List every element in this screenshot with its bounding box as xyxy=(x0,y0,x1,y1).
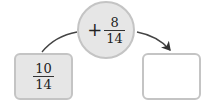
plus-operator: + xyxy=(87,21,102,39)
connector-arc-in xyxy=(42,32,77,52)
start-value-box: 10 14 xyxy=(14,53,73,100)
result-answer-box[interactable] xyxy=(142,53,201,100)
operation-numerator: 8 xyxy=(108,16,120,30)
start-fraction: 10 14 xyxy=(33,62,54,91)
operation-denominator: 14 xyxy=(104,31,125,45)
connector-arrow-out xyxy=(137,32,170,50)
operation-fraction: 8 14 xyxy=(104,16,125,45)
operation-circle: + 8 14 xyxy=(77,1,135,59)
start-numerator: 10 xyxy=(33,62,54,76)
start-denominator: 14 xyxy=(33,77,54,91)
